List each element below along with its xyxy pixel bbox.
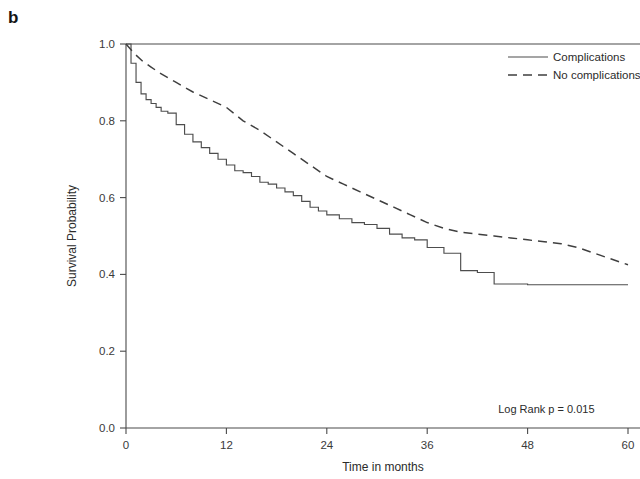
legend-label: No complications xyxy=(553,69,640,81)
x-axis-ticks: 01224364860 xyxy=(123,428,635,451)
x-tick-label: 12 xyxy=(220,439,233,451)
x-tick-label: 36 xyxy=(421,439,434,451)
log-rank-p: Log Rank p = 0.015 xyxy=(498,403,594,415)
y-axis-ticks: 0.00.20.40.60.81.0 xyxy=(99,38,126,434)
x-axis-title: Time in months xyxy=(342,460,424,474)
chart-annotations: Log Rank p = 0.015 xyxy=(498,403,594,415)
legend-label: Complications xyxy=(553,51,625,63)
figure-panel: b 0.00.20.40.60.81.0 01224364860 Surviva… xyxy=(0,0,640,479)
y-tick-label: 0.6 xyxy=(99,192,115,204)
x-tick-label: 48 xyxy=(521,439,534,451)
y-tick-label: 1.0 xyxy=(99,38,115,50)
y-tick-label: 0.8 xyxy=(99,115,115,127)
x-tick-label: 0 xyxy=(123,439,129,451)
y-tick-label: 0.2 xyxy=(99,345,115,357)
y-axis-title: Survival Probability xyxy=(65,185,79,287)
x-tick-label: 60 xyxy=(622,439,635,451)
chart-legend: ComplicationsNo complications xyxy=(508,51,640,81)
survival-curve-chart: 0.00.20.40.60.81.0 01224364860 Survival … xyxy=(0,0,640,479)
x-tick-label: 24 xyxy=(320,439,333,451)
y-tick-label: 0.0 xyxy=(99,422,115,434)
y-tick-label: 0.4 xyxy=(99,268,116,280)
